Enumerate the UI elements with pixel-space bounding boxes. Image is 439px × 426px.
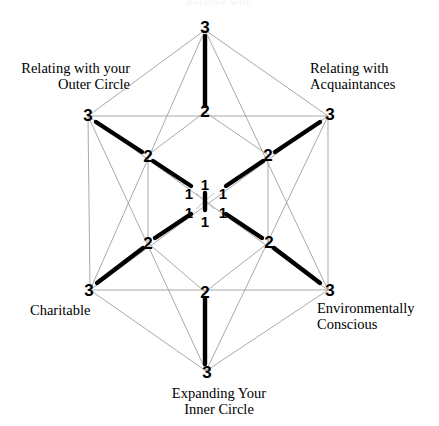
node-upper-left-1: 1 (185, 186, 193, 201)
axis-caption-acquaintances: Relating with Acquaintances (310, 60, 438, 92)
node-bottom-3: 3 (202, 364, 211, 381)
node-upper-right-1: 1 (219, 186, 227, 201)
node-upper-left-3: 3 (83, 107, 92, 124)
node-top-1: 1 (201, 177, 209, 192)
axis-caption-environmentally-conscious: Environmentally Conscious (317, 300, 439, 332)
diagram-canvas: Relating with (0, 0, 439, 426)
segment-ll-2-to-3 (97, 248, 143, 283)
node-upper-right-3: 3 (325, 106, 334, 123)
segment-lr-2-to-3 (274, 248, 320, 283)
segment-lr-1-to-2 (226, 214, 262, 238)
cropped-top-text: Relating with (186, 0, 252, 5)
node-lower-left-2: 2 (143, 235, 152, 252)
node-bottom-1: 1 (201, 214, 209, 229)
node-lower-right-3: 3 (325, 282, 334, 299)
node-upper-right-2: 2 (263, 147, 272, 164)
node-lower-left-1: 1 (185, 205, 193, 220)
node-bottom-2: 2 (200, 284, 209, 301)
node-lower-right-2: 2 (264, 234, 273, 251)
node-lower-right-1: 1 (219, 205, 227, 220)
axis-caption-outer-circle: Relating with your Outer Circle (4, 60, 130, 92)
node-lower-left-3: 3 (84, 282, 93, 299)
node-top-2: 2 (200, 103, 209, 120)
axis-caption-inner-circle: Expanding Your Inner Circle (104, 385, 334, 417)
segment-ul-2-to-1 (153, 161, 191, 186)
node-top-3: 3 (200, 19, 209, 36)
node-upper-left-2: 2 (143, 148, 152, 165)
axis-caption-charitable: Charitable (30, 302, 140, 318)
segment-ur-2-to-1 (226, 161, 263, 186)
